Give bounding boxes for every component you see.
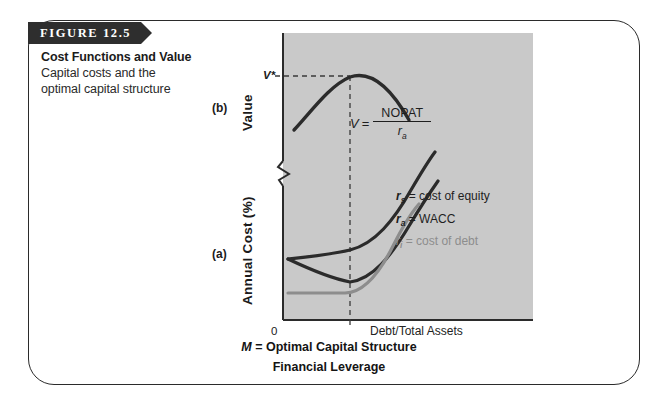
figure-number-label: FIGURE 12.5 xyxy=(40,26,131,41)
x-axis-label: Debt/Total Assets xyxy=(370,324,463,338)
panel-letter-b: (b) xyxy=(212,101,227,115)
formula-lhs: V xyxy=(350,116,359,131)
curve-label-cost-of-equity: rs = cost of equity xyxy=(396,189,490,205)
curve-label-wacc: ra = WACC xyxy=(396,212,455,228)
formula-equals: = xyxy=(362,116,370,131)
y-axis-title-annual-cost: Annual Cost (%) xyxy=(240,196,255,305)
curve-symbol-rs: rs xyxy=(396,189,405,203)
axis-break-icon xyxy=(278,161,289,186)
origin-label: 0 xyxy=(271,325,277,337)
value-formula: V = NOPAT ra xyxy=(350,106,431,141)
curve-text-ri: = cost of debt xyxy=(402,234,478,248)
caption-optimal-capital-structure: M = Optimal Capital Structure xyxy=(0,340,658,354)
figure-number-bar: FIGURE 12.5 xyxy=(28,22,141,44)
formula-numerator: NOPAT xyxy=(375,106,429,121)
banner-arrow-icon xyxy=(141,22,152,44)
caption-financial-leverage: Financial Leverage xyxy=(0,360,658,374)
formula-denominator-subscript: a xyxy=(402,131,407,141)
curve-label-cost-of-debt: ri = cost of debt xyxy=(396,234,478,250)
panel-letter-a: (a) xyxy=(212,247,227,261)
formula-denominator: ra xyxy=(398,122,407,141)
curve-text-ra: = WACC xyxy=(405,212,455,226)
formula-fraction: NOPAT ra xyxy=(373,106,431,141)
caption-optimal-rest: = Optimal Capital Structure xyxy=(252,340,417,354)
curve-text-rs: = cost of equity xyxy=(405,189,489,203)
curve-symbol-ra: ra xyxy=(396,212,405,226)
figure-number-banner: FIGURE 12.5 xyxy=(28,22,152,44)
v-star-label: V* xyxy=(263,69,275,81)
caption-optimal-m: M xyxy=(241,340,251,354)
y-axis-title-value: Value xyxy=(240,94,255,131)
